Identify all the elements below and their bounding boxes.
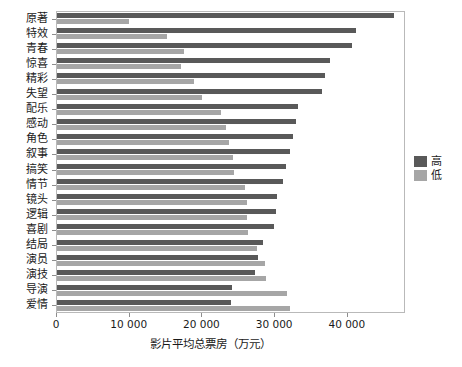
- y-tick-label: 情节: [26, 179, 48, 190]
- y-tick-label: 结局: [26, 239, 48, 250]
- bar-high: [57, 164, 286, 169]
- bar-group: [57, 42, 404, 57]
- x-tick-mark: [274, 313, 275, 317]
- legend-label-low: 低: [431, 170, 442, 181]
- y-tick-label: 镜头: [26, 194, 48, 205]
- y-tick-label: 叙事: [26, 148, 48, 159]
- bar-low: [57, 140, 229, 145]
- bar-high: [57, 224, 274, 229]
- bar-low: [57, 306, 290, 311]
- bar-high: [57, 240, 263, 245]
- y-tick-label: 角色: [26, 133, 48, 144]
- bar-group: [57, 223, 404, 238]
- bar-high: [57, 255, 258, 260]
- y-tick-label: 搞笑: [26, 164, 48, 175]
- bar-high: [57, 270, 255, 275]
- bar-low: [57, 110, 221, 115]
- bar-low: [57, 246, 257, 251]
- y-tick-label: 失望: [26, 88, 48, 99]
- bar-group: [57, 284, 404, 299]
- bar-group: [57, 208, 404, 223]
- bar-group: [57, 88, 404, 103]
- bar-group: [57, 299, 404, 314]
- bar-high: [57, 43, 352, 48]
- bar-group: [57, 269, 404, 284]
- bar-low: [57, 79, 194, 84]
- y-tick-label: 导演: [26, 284, 48, 295]
- y-tick-label: 喜剧: [26, 224, 48, 235]
- y-tick-label: 爱情: [26, 299, 48, 310]
- bar-high: [57, 58, 330, 63]
- y-tick-label: 青春: [26, 43, 48, 54]
- bar-low: [57, 215, 247, 220]
- bar-group: [57, 12, 404, 27]
- bar-high: [57, 194, 277, 199]
- bar-low: [57, 261, 265, 266]
- legend-item-high: 高: [414, 156, 442, 167]
- bar-group: [57, 72, 404, 87]
- legend: 高 低: [414, 156, 442, 181]
- bar-low: [57, 230, 248, 235]
- bar-high: [57, 300, 231, 305]
- bar-group: [57, 57, 404, 72]
- y-tick-label: 演技: [26, 269, 48, 280]
- bar-high: [57, 28, 356, 33]
- bar-low: [57, 95, 202, 100]
- bar-chart: 原著特效青春惊喜精彩失望配乐感动角色叙事搞笑情节镜头逻辑喜剧结局演员演技导演爱情…: [0, 0, 462, 367]
- x-axis: 010 00020 00030 00040 000: [56, 313, 405, 335]
- bar-low: [57, 276, 266, 281]
- bar-group: [57, 193, 404, 208]
- y-tick-label: 演员: [26, 254, 48, 265]
- x-tick-mark: [56, 313, 57, 317]
- legend-label-high: 高: [431, 156, 442, 167]
- plot-area: [56, 11, 405, 313]
- y-tick-label: 惊喜: [26, 58, 48, 69]
- bar-high: [57, 179, 283, 184]
- x-tick-label: 40 000: [328, 319, 365, 330]
- x-axis-title: 影片平均总票房（万元）: [0, 338, 420, 351]
- y-tick-label: 原著: [26, 13, 48, 24]
- bar-low: [57, 291, 287, 296]
- x-tick-label: 20 000: [183, 319, 220, 330]
- legend-swatch-low: [414, 170, 427, 181]
- bar-high: [57, 89, 322, 94]
- x-tick-mark: [201, 313, 202, 317]
- x-tick-label: 0: [53, 319, 60, 330]
- bar-low: [57, 34, 167, 39]
- y-tick-label: 特效: [26, 28, 48, 39]
- bars-layer: [57, 12, 404, 312]
- y-tick-label: 配乐: [26, 103, 48, 114]
- bar-group: [57, 254, 404, 269]
- bar-group: [57, 27, 404, 42]
- bar-group: [57, 133, 404, 148]
- bar-high: [57, 73, 325, 78]
- bar-high: [57, 149, 290, 154]
- bar-low: [57, 19, 129, 24]
- bar-high: [57, 209, 276, 214]
- x-tick-label: 10 000: [110, 319, 147, 330]
- y-tick-label: 感动: [26, 118, 48, 129]
- bar-group: [57, 103, 404, 118]
- x-tick-mark: [347, 313, 348, 317]
- bar-high: [57, 119, 296, 124]
- bar-low: [57, 125, 226, 130]
- bar-low: [57, 185, 245, 190]
- bar-high: [57, 285, 232, 290]
- y-tick-label: 精彩: [26, 73, 48, 84]
- x-tick-mark: [129, 313, 130, 317]
- bar-high: [57, 13, 394, 18]
- legend-swatch-high: [414, 156, 427, 167]
- bar-low: [57, 49, 184, 54]
- bar-group: [57, 118, 404, 133]
- x-tick-label: 30 000: [256, 319, 293, 330]
- y-tick-label: 逻辑: [26, 209, 48, 220]
- y-axis: 原著特效青春惊喜精彩失望配乐感动角色叙事搞笑情节镜头逻辑喜剧结局演员演技导演爱情: [0, 11, 56, 313]
- bar-group: [57, 178, 404, 193]
- bar-low: [57, 200, 247, 205]
- bar-group: [57, 163, 404, 178]
- bar-group: [57, 239, 404, 254]
- legend-item-low: 低: [414, 170, 442, 181]
- bar-low: [57, 155, 233, 160]
- bar-low: [57, 170, 234, 175]
- bar-group: [57, 148, 404, 163]
